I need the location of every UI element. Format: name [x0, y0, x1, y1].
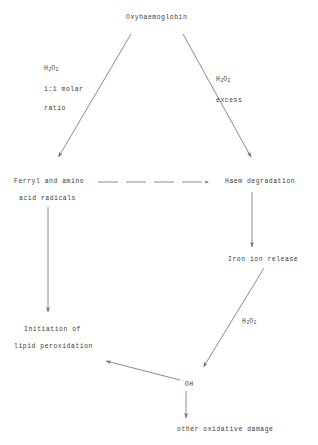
node-initiation-of-lipid-peroxidation-line1: Initiation of — [24, 326, 81, 334]
formula-hydrogen-peroxide-fenton: H2O2 — [242, 318, 256, 327]
node-oxyhaemoglobin: Oxyhaemoglobin — [126, 14, 187, 22]
formula-o-sub: 2 — [56, 67, 59, 72]
node-ferryl-and-amino-acid-radicals-line1: Ferryl and amino — [14, 178, 84, 186]
node-initiation-of-lipid-peroxidation-line2: lipid peroxidation — [14, 343, 93, 351]
formula-hydrogen-peroxide-right: H2O2 — [216, 76, 242, 85]
node-hydroxyl-radical: ˙OH — [181, 379, 194, 389]
formula-o-sub: 2 — [254, 320, 257, 325]
node-iron-ion-release: Iron ion release — [228, 256, 298, 264]
node-other-oxidative-damage: other oxidative damage — [177, 426, 273, 434]
edge-label-left-branch-h2o2-1to1-molar-ratio: H2O2 1:1 molar ratio — [44, 65, 83, 114]
formula-o-sub: 2 — [228, 78, 231, 83]
edge-label-left-branch-line2: 1:1 molar — [44, 86, 83, 94]
edge-label-right-branch-line2: excess — [216, 97, 242, 105]
edge-label-fenton-h2o2: H2O2 — [242, 318, 256, 327]
edge-label-right-branch-h2o2-excess: H2O2 excess — [216, 76, 242, 105]
node-haem-degradation: Haem degradation — [225, 178, 295, 186]
node-ferryl-and-amino-acid-radicals-line2: acid radicals — [19, 195, 76, 203]
edge-label-left-branch-line3: ratio — [44, 105, 83, 113]
diagram-canvas: Oxyhaemoglobin Ferryl and amino acid rad… — [0, 0, 318, 445]
edge-hydroxyl-radical-to-lipid-peroxidation — [106, 361, 180, 380]
formula-hydrogen-peroxide-left: H2O2 — [44, 65, 83, 74]
node-hydroxyl-radical-text: OH — [185, 381, 194, 388]
